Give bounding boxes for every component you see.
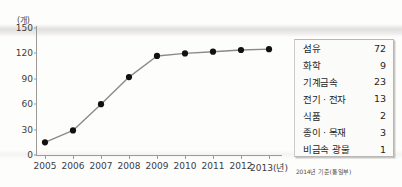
table-row: 화학9 [295, 57, 393, 74]
category-value: 3 [380, 127, 386, 138]
table-row: 전기 · 전자13 [295, 90, 393, 107]
category-label: 기계금속 [303, 75, 338, 89]
category-label: 화학 [303, 58, 320, 72]
series-plot [0, 0, 290, 187]
source-note: 2014년 기준(통일부) [296, 167, 351, 176]
data-point-marker [210, 49, 216, 55]
category-table-body: 섬유72화학9기계금속23전기 · 전자13식품2종이 · 목재3비금속 광물1 [295, 40, 393, 158]
series-line [45, 49, 269, 142]
category-value: 72 [374, 43, 386, 54]
data-point-marker [154, 53, 160, 59]
data-point-marker [266, 46, 272, 52]
chart-figure: (개) 1501209060300 2005200620072008200920… [0, 0, 402, 187]
category-value: 9 [380, 60, 386, 71]
data-point-marker [42, 139, 48, 145]
category-value: 13 [374, 93, 386, 104]
data-point-marker [182, 50, 188, 56]
category-value: 23 [374, 76, 386, 87]
table-row: 섬유72 [295, 40, 393, 57]
category-label: 종이 · 목재 [303, 125, 346, 139]
data-point-marker [126, 74, 132, 80]
table-row: 비금속 광물1 [295, 141, 393, 158]
data-point-marker [98, 101, 104, 107]
table-row: 식품2 [295, 107, 393, 124]
series-markers [42, 46, 272, 145]
data-point-marker [238, 47, 244, 53]
line-chart: (개) 1501209060300 2005200620072008200920… [0, 0, 290, 187]
category-label: 식품 [303, 109, 320, 123]
category-table: 섬유72화학9기계금속23전기 · 전자13식품2종이 · 목재3비금속 광물1 [294, 39, 394, 157]
category-label: 전기 · 전자 [303, 92, 346, 106]
category-value: 1 [380, 144, 386, 155]
category-label: 비금속 광물 [303, 142, 349, 156]
category-label: 섬유 [303, 41, 320, 55]
data-point-marker [70, 127, 76, 133]
category-value: 2 [380, 110, 386, 121]
table-row: 종이 · 목재3 [295, 124, 393, 141]
table-row: 기계금속23 [295, 74, 393, 91]
